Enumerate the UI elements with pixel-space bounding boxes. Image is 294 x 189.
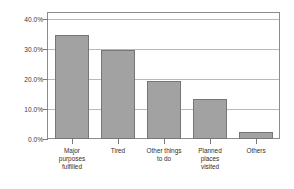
x-axis-label-others: Others (226, 147, 286, 155)
x-axis-tick-2 (164, 139, 165, 144)
x-axis-tick-4 (256, 139, 257, 144)
bar-others[interactable] (239, 132, 273, 139)
x-axis-tick-3 (210, 139, 211, 144)
bar-major-purposes-fulfilled[interactable] (55, 35, 89, 139)
bar-tired[interactable] (101, 50, 135, 139)
bar-other-things-to-do[interactable] (147, 81, 181, 140)
bar-chart: 40.0% 30.0% 20.0% 10.0% 0.0% Major purpo… (0, 0, 294, 189)
bar-planned-places-visited[interactable] (193, 99, 227, 139)
x-axis-tick-0 (72, 139, 73, 144)
x-axis-tick-1 (118, 139, 119, 144)
